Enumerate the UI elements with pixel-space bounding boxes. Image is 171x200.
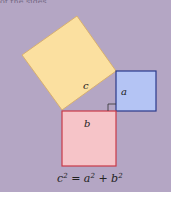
label-a: a [121, 86, 127, 97]
eq-equals: = [68, 172, 84, 185]
label-c: c [83, 80, 89, 91]
right-angle-marker [108, 104, 116, 111]
pythagorean-figure: of the sides. c a b c2 = a2 + b2 [0, 0, 171, 200]
diagram-svg: c a b c2 = a2 + b2 [0, 0, 171, 200]
equation: c2 = a2 + b2 [57, 172, 123, 185]
label-b: b [84, 118, 90, 129]
eq-b: b [111, 172, 118, 185]
eq-plus: + [95, 172, 111, 185]
eq-b-exp: 2 [117, 172, 123, 180]
square-c [22, 16, 116, 110]
